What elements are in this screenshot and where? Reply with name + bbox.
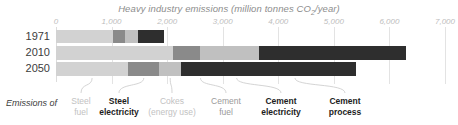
leader-line bbox=[295, 78, 345, 93]
bar-segment bbox=[138, 30, 164, 43]
x-tick-label: 5,000 bbox=[324, 17, 344, 26]
chart-title: Heavy industry emissions (million tonnes… bbox=[0, 3, 458, 16]
gridline bbox=[445, 27, 446, 84]
x-tick-label: 1,000 bbox=[102, 17, 122, 26]
legend-label-line2: (energy use) bbox=[148, 107, 196, 118]
chart-title-tail: /year) bbox=[315, 3, 340, 14]
legend-label-line2: fuel bbox=[71, 107, 90, 118]
leader-line bbox=[119, 78, 144, 93]
legend-item-steel-electricity: Steelelectricity bbox=[99, 96, 139, 117]
x-tick-label: 6,000 bbox=[379, 17, 399, 26]
x-tick-label: 2,000 bbox=[157, 17, 177, 26]
stacked-bar-2010 bbox=[56, 46, 406, 60]
heavy-industry-emissions-chart: Heavy industry emissions (million tonnes… bbox=[0, 0, 458, 125]
legend-item-cement-process: Cementprocess bbox=[329, 96, 362, 117]
legend-item-cement-electricity: Cementelectricity bbox=[261, 96, 301, 117]
emissions-of-annotation: Emissions of bbox=[6, 98, 57, 108]
year-label-2050: 2050 bbox=[14, 62, 50, 74]
bar-segment bbox=[200, 46, 258, 60]
legend-label-line2: fuel bbox=[211, 107, 241, 118]
chart-title-main: Heavy industry emissions (million tonnes… bbox=[118, 3, 311, 14]
legend-label-line2: process bbox=[329, 107, 362, 118]
leader-line bbox=[81, 78, 92, 93]
legend-label-line1: Steel bbox=[71, 96, 90, 107]
x-tick-label: 4,000 bbox=[268, 17, 288, 26]
leader-line bbox=[170, 78, 172, 93]
year-label-2010: 2010 bbox=[14, 46, 50, 58]
x-tick-label: 3,000 bbox=[213, 17, 233, 26]
bar-segment bbox=[56, 46, 173, 60]
stacked-bar-2050 bbox=[56, 62, 356, 76]
bar-segment bbox=[173, 46, 201, 60]
legend-label-line2: electricity bbox=[261, 107, 301, 118]
legend-label-line2: electricity bbox=[99, 107, 139, 118]
legend-label-line1: Cokes bbox=[148, 96, 196, 107]
bar-segment bbox=[56, 30, 113, 43]
legend-label-line1: Cement bbox=[261, 96, 301, 107]
year-label-1971: 1971 bbox=[14, 30, 50, 42]
legend-item-cement-fuel: Cementfuel bbox=[211, 96, 241, 117]
legend-label-line1: Steel bbox=[99, 96, 139, 107]
bar-segment bbox=[125, 30, 138, 43]
bar-segment bbox=[159, 62, 181, 76]
stacked-bar-1971 bbox=[56, 30, 164, 43]
x-tick-label: 7,000 bbox=[435, 17, 455, 26]
x-tick-label: 0 bbox=[54, 17, 58, 26]
bar-segment bbox=[56, 62, 128, 76]
legend-label-line1: Cement bbox=[329, 96, 362, 107]
bar-segment bbox=[128, 62, 159, 76]
bar-segment bbox=[113, 30, 125, 43]
legend-item-cokes-energyuse: Cokes(energy use) bbox=[148, 96, 196, 117]
legend-label-line1: Cement bbox=[211, 96, 241, 107]
leader-line bbox=[237, 78, 281, 93]
bar-segment bbox=[181, 62, 356, 76]
legend-item-steel-fuel: Steelfuel bbox=[71, 96, 90, 117]
bar-segment bbox=[259, 46, 406, 60]
